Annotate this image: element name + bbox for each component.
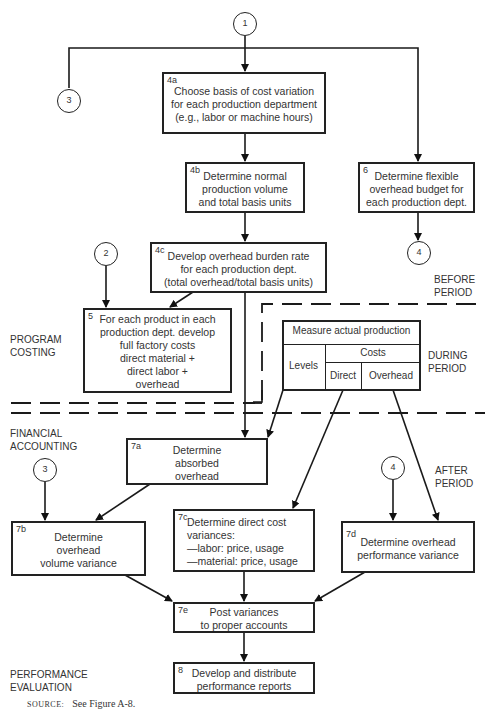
step-line: performance variance <box>343 549 473 562</box>
connector-circle-1: 1 <box>233 12 257 36</box>
step-text: Choose basis of cost variation for each … <box>164 85 324 124</box>
step-text: Post variances to proper accounts <box>175 606 313 632</box>
step-text: Develop overhead burden rate for each pr… <box>152 250 325 289</box>
connector-circle-2: 2 <box>94 242 118 266</box>
label-line: PERIOD <box>434 286 475 299</box>
step-text: Determine direct cost variances: —labor:… <box>187 516 313 568</box>
step-text: Determine normal production volume and t… <box>187 170 303 209</box>
step-line: for each production dept. <box>152 263 325 276</box>
step-line: Determine direct cost <box>187 516 313 529</box>
section-label-financial-accounting: FINANCIAL ACCOUNTING <box>10 427 77 453</box>
step-7a-box: 7a Determine absorbed overhead <box>126 438 268 485</box>
step-line: direct material + <box>85 352 230 365</box>
step-line: Determine overhead <box>343 536 473 549</box>
step-line: overhead <box>85 378 230 391</box>
overhead-cell: Overhead <box>361 362 421 391</box>
label-line: DURING <box>428 349 467 362</box>
connector-circle-3-top: 3 <box>57 89 81 113</box>
source-note: SOURCE:See Figure A-8. <box>27 698 135 709</box>
step-text: Determine overhead volume variance <box>13 531 144 570</box>
step-line: Determine flexible <box>360 170 473 183</box>
step-line: (e.g., labor or machine hours) <box>164 111 324 124</box>
phase-label-before: BEFORE PERIOD <box>434 273 475 299</box>
step-line: to proper accounts <box>175 619 313 632</box>
costs-cell: Costs <box>325 344 421 363</box>
section-label-performance-evaluation: PERFORMANCE EVALUATION <box>10 668 88 694</box>
step-text: Develop and distribute performance repor… <box>175 667 313 693</box>
step-line: for each production department <box>164 98 324 111</box>
step-7b-box: 7b Determine overhead volume variance <box>11 521 146 576</box>
phase-label-during: DURING PERIOD <box>428 349 467 375</box>
measure-production-table: Measure actual production Levels Costs D… <box>282 320 421 391</box>
connector-circle-3-bottom: 3 <box>33 458 57 482</box>
step-line: overhead <box>13 544 144 557</box>
step-number: 4a <box>167 75 177 85</box>
step-line: full factory costs <box>85 339 230 352</box>
connector-circle-4-top: 4 <box>407 241 431 265</box>
step-line: performance reports <box>175 680 313 693</box>
step-line: Develop and distribute <box>175 667 313 680</box>
measure-title-cell: Measure actual production <box>282 320 421 345</box>
step-line: direct labor + <box>85 365 230 378</box>
step-text: Determine overhead performance variance <box>343 536 473 562</box>
step-text: Determine absorbed overhead <box>128 444 266 483</box>
label-line: BEFORE <box>434 273 475 286</box>
label-line: FINANCIAL <box>10 427 77 440</box>
step-7e-box: 7e Post variances to proper accounts <box>173 602 315 633</box>
step-line: Post variances <box>175 606 313 619</box>
step-4a-box: 4a Choose basis of cost variation for ea… <box>162 72 326 134</box>
label-line: EVALUATION <box>10 681 88 694</box>
step-line: overhead <box>128 470 266 483</box>
step-line: Choose basis of cost variation <box>164 85 324 98</box>
source-label: SOURCE: <box>27 700 64 709</box>
step-line: and total basis units <box>187 196 303 209</box>
label-line: AFTER <box>435 464 473 477</box>
step-line: Determine <box>128 444 266 457</box>
label-line: PERFORMANCE <box>10 668 88 681</box>
levels-cell: Levels <box>282 344 326 391</box>
direct-cell: Direct <box>325 362 362 391</box>
label-line: ACCOUNTING <box>10 440 77 453</box>
step-7d-box: 7d Determine overhead performance varian… <box>341 521 475 573</box>
step-4b-box: 4b Determine normal production volume an… <box>185 162 305 213</box>
phase-label-after: AFTER PERIOD <box>435 464 473 490</box>
step-line: volume variance <box>13 557 144 570</box>
source-text: See Figure A-8. <box>72 698 135 709</box>
step-line: each production dept. <box>360 196 473 209</box>
step-line: For each product in each <box>85 313 230 326</box>
section-label-program-costing: PROGRAM COSTING <box>10 333 62 359</box>
step-line: —material: price, usage <box>187 555 313 568</box>
step-line: Determine <box>13 531 144 544</box>
step-8-box: 8 Develop and distribute performance rep… <box>173 662 315 694</box>
step-line: Develop overhead burden rate <box>152 250 325 263</box>
label-line: PERIOD <box>435 477 473 490</box>
label-line: PROGRAM <box>10 333 62 346</box>
step-line: overhead budget for <box>360 183 473 196</box>
step-4c-box: 4c Develop overhead burden rate for each… <box>150 242 327 293</box>
step-line: Determine normal <box>187 170 303 183</box>
step-line: absorbed <box>128 457 266 470</box>
step-line: production volume <box>187 183 303 196</box>
label-line: COSTING <box>10 346 62 359</box>
step-text: For each product in each production dept… <box>85 313 230 391</box>
step-line: (total overhead/total basis units) <box>152 276 325 289</box>
step-5-box: 5 For each product in each production de… <box>83 308 232 393</box>
step-line: —labor: price, usage <box>187 542 313 555</box>
step-line: variances: <box>187 529 313 542</box>
label-line: PERIOD <box>428 362 467 375</box>
step-7c-box: 7c Determine direct cost variances: —lab… <box>173 509 315 572</box>
step-text: Determine flexible overhead budget for e… <box>360 170 473 209</box>
step-6-box: 6 Determine flexible overhead budget for… <box>358 162 475 213</box>
step-line: production dept. develop <box>85 326 230 339</box>
connector-circle-4-bottom: 4 <box>381 456 405 480</box>
